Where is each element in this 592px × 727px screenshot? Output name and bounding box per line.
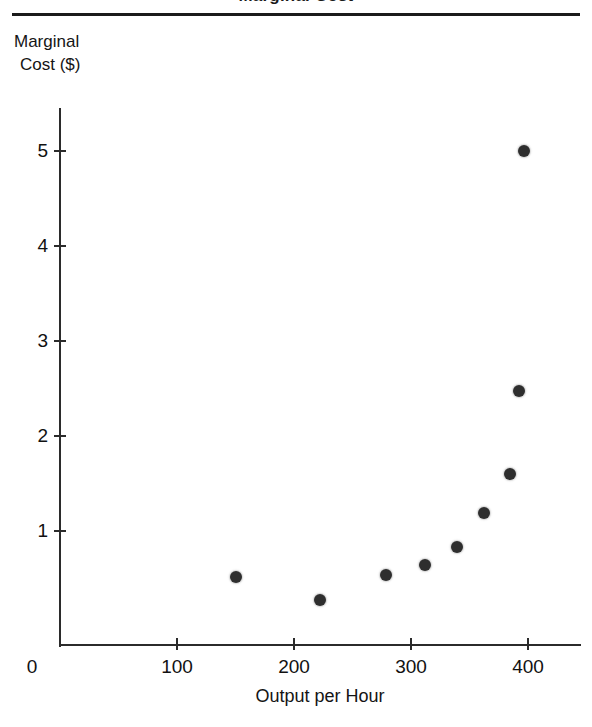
scatter-point bbox=[314, 594, 326, 606]
top-horizontal-rule bbox=[12, 13, 580, 16]
x-axis-tick-label: 200 bbox=[264, 657, 324, 677]
x-axis-tick bbox=[293, 638, 295, 650]
scatter-point bbox=[518, 145, 530, 157]
y-axis-tick-label: 5 bbox=[22, 141, 48, 160]
y-axis-line bbox=[59, 108, 61, 647]
chart-figure: Marginal Cost MarginalCost ($) 12345 010… bbox=[0, 0, 592, 727]
y-axis-tick-label: 3 bbox=[22, 331, 48, 350]
scatter-point bbox=[504, 468, 516, 480]
y-axis-label: MarginalCost ($) bbox=[14, 30, 80, 76]
x-axis-tick-label: 100 bbox=[147, 657, 207, 677]
y-axis-tick-label: 2 bbox=[22, 426, 48, 445]
y-axis-tick bbox=[54, 340, 66, 342]
scatter-point bbox=[478, 507, 490, 519]
y-axis-label-line-1: Marginal bbox=[14, 32, 79, 51]
x-axis-tick-label: 400 bbox=[498, 657, 558, 677]
x-axis-tick-label: 0 bbox=[2, 657, 62, 677]
scatter-point bbox=[380, 569, 392, 581]
clipped-title-fragment: Marginal Cost bbox=[0, 0, 592, 4]
y-axis-tick bbox=[54, 245, 66, 247]
scatter-point bbox=[230, 571, 242, 583]
scatter-point bbox=[513, 385, 525, 397]
x-axis-label: Output per Hour bbox=[60, 686, 580, 707]
y-axis-tick bbox=[54, 530, 66, 532]
y-axis-tick-label: 1 bbox=[22, 521, 48, 540]
y-axis-tick bbox=[54, 435, 66, 437]
x-axis-tick bbox=[527, 638, 529, 650]
y-axis-tick-label: 4 bbox=[22, 236, 48, 255]
scatter-point bbox=[419, 559, 431, 571]
x-axis-tick bbox=[410, 638, 412, 650]
y-axis-label-line-2: Cost ($) bbox=[14, 53, 80, 76]
x-axis-line bbox=[59, 644, 581, 646]
x-axis-tick bbox=[176, 638, 178, 650]
scatter-point bbox=[451, 541, 463, 553]
x-axis-tick-label: 300 bbox=[381, 657, 441, 677]
y-axis-tick bbox=[54, 150, 66, 152]
